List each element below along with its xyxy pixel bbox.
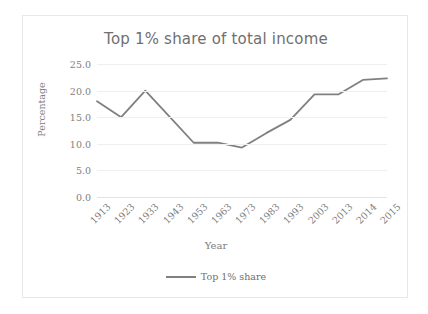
data-series-top-1-percent-share [97,64,387,197]
gridline [97,117,387,118]
gridline [97,170,387,171]
chart-legend: Top 1% share [23,271,409,282]
gridline [97,64,387,65]
legend-item-label: Top 1% share [201,271,266,282]
x-axis-title: Year [23,240,409,251]
y-axis-tick-label: 0.0 [51,192,91,203]
y-axis-tick-label: 20.0 [51,85,91,96]
gridline [97,197,387,198]
chart-container: Top 1% share of total income Percentage … [22,15,408,298]
gridline [97,144,387,145]
y-axis-tick-labels: 25.020.015.010.05.00.0 [47,64,91,197]
y-axis-tick-label: 15.0 [51,112,91,123]
legend-line-swatch [166,276,196,278]
y-axis-tick-label: 25.0 [51,59,91,70]
x-axis-tick-labels: 1913192319331943195319631973198319932003… [97,201,387,241]
plot-area [97,64,387,197]
y-axis-tick-label: 5.0 [51,165,91,176]
y-axis-title: Percentage [36,65,47,155]
gridline [97,91,387,92]
y-axis-tick-label: 10.0 [51,138,91,149]
chart-title: Top 1% share of total income [23,30,409,48]
legend-item-top-1-percent-share: Top 1% share [166,271,266,282]
